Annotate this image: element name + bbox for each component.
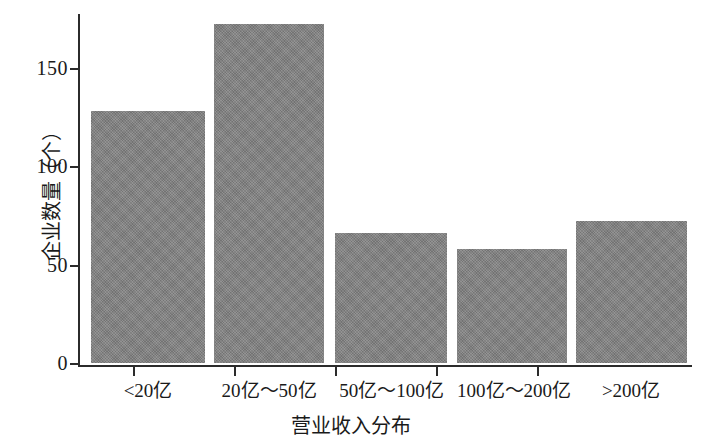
bar-1 [214,24,324,363]
y-axis-line [78,14,80,367]
x-tick-label-0: <20亿 [88,379,208,403]
x-axis-line [78,365,692,367]
x-tick-label-1: 20亿～50亿 [199,379,339,403]
y-tick-label-150: 150 [16,58,78,78]
x-tick-mark-4 [537,367,539,376]
bar-chart: 企业数量（个） 150 100 50 0 <20亿 20亿～50亿 50亿～10… [0,0,702,444]
x-tick-label-4: >200亿 [571,379,691,403]
y-tick-label-50: 50 [16,255,78,275]
x-axis-title: 营业收入分布 [0,414,702,438]
y-tick-label-0: 0 [16,353,78,373]
x-tick-mark-3 [436,367,438,376]
bar-3 [457,249,567,363]
x-tick-mark-0 [133,367,135,376]
x-tick-mark-2 [335,367,337,376]
y-tick-label-100: 100 [16,156,78,176]
bar-2 [335,233,447,363]
bar-0 [91,111,205,363]
x-tick-label-3: 100亿～200亿 [439,379,589,403]
x-tick-mark-1 [234,367,236,376]
y-axis-title: 企业数量（个） [41,41,63,341]
bar-4 [576,221,687,363]
